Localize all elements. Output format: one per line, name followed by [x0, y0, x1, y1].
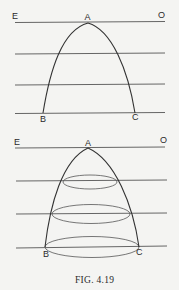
figure-4-19: E A O B C E A O B C FIG. 4.19 [0, 0, 179, 290]
top-diagram: E A O B C [12, 10, 165, 124]
ellipse-section-1 [63, 175, 117, 189]
line-bc-bottom [16, 246, 167, 248]
label-c-bottom: C [136, 247, 143, 257]
label-e-bottom: E [14, 137, 20, 147]
label-a-bottom: A [85, 138, 91, 148]
horizontal-line-3-bottom [16, 213, 167, 214]
line-bc-top [15, 113, 165, 114]
label-o-top: O [158, 10, 165, 20]
parabola-curve-top [43, 23, 135, 113]
horizontal-line-2-bottom [16, 180, 167, 181]
horizontal-line-2-top [15, 53, 165, 54]
label-b-bottom: B [43, 249, 49, 259]
label-o-bottom: O [160, 135, 167, 145]
label-e-top: E [12, 11, 18, 21]
label-b-top: B [40, 114, 46, 124]
paraboloid-curve-bottom [45, 148, 139, 247]
label-c-top: C [132, 112, 139, 122]
figure-caption: FIG. 4.19 [75, 275, 114, 285]
label-a-top: A [85, 12, 91, 22]
bottom-diagram: E A O B C [14, 135, 167, 259]
horizontal-line-3-top [15, 84, 165, 85]
